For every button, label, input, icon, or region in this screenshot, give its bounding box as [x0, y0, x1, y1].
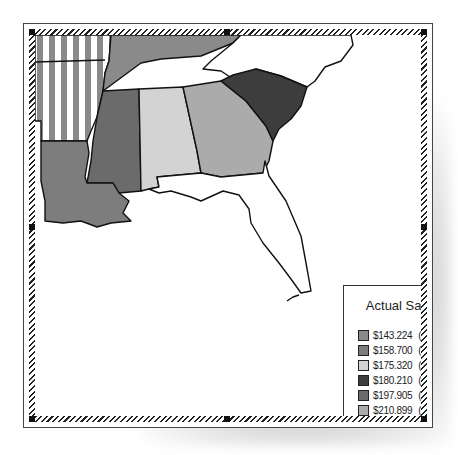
florida-keys: [287, 295, 299, 301]
resize-handle-bottom-right[interactable]: [421, 416, 427, 422]
legend-item-count: (1): [418, 405, 421, 416]
legend-item-label: $180.210: [373, 375, 412, 386]
legend-item[interactable]: $158.700 (1): [358, 343, 421, 358]
legend-item[interactable]: $210.899 (1): [358, 403, 421, 416]
legend-item[interactable]: $180.210 (1): [358, 373, 421, 388]
legend-item-count: (1): [418, 390, 421, 401]
legend-item-label: $158.700: [373, 345, 412, 356]
legend-item-count: (1): [418, 330, 421, 341]
legend-item-count: (1): [418, 345, 421, 356]
legend-item[interactable]: $175.320 (1): [358, 358, 421, 373]
legend-title: Actual Sales: [344, 298, 421, 313]
state-florida: [149, 161, 311, 293]
legend-swatch: [358, 330, 369, 341]
legend-rows: $143.224 (1) $158.700 (1) $175.320 (1) $…: [358, 328, 421, 416]
legend-swatch: [358, 405, 369, 416]
legend-item-label: $175.320: [373, 360, 412, 371]
legend-item-count: (1): [418, 360, 421, 371]
legend-item[interactable]: $143.224 (1): [358, 328, 421, 343]
resize-handle-right-mid[interactable]: [421, 224, 427, 230]
legend-item[interactable]: $197.905 (1): [358, 388, 421, 403]
legend-swatch: [358, 345, 369, 356]
legend-item-count: (1): [418, 375, 421, 386]
map-legend[interactable]: Actual Sales $143.224 (1) $158.700 (1) $…: [343, 285, 421, 416]
map-frame[interactable]: Actual Sales $143.224 (1) $158.700 (1) $…: [23, 23, 433, 428]
legend-item-label: $143.224: [373, 330, 412, 341]
legend-item-label: $210.899: [373, 405, 412, 416]
legend-swatch: [358, 360, 369, 371]
resize-handle-top-right[interactable]: [421, 29, 427, 35]
resize-handle-bottom-left[interactable]: [29, 416, 35, 422]
legend-swatch: [358, 390, 369, 401]
resize-handle-bottom-mid[interactable]: [224, 416, 230, 422]
legend-item-label: $197.905: [373, 390, 412, 401]
legend-swatch: [358, 375, 369, 386]
map-canvas[interactable]: Actual Sales $143.224 (1) $158.700 (1) $…: [35, 35, 421, 416]
